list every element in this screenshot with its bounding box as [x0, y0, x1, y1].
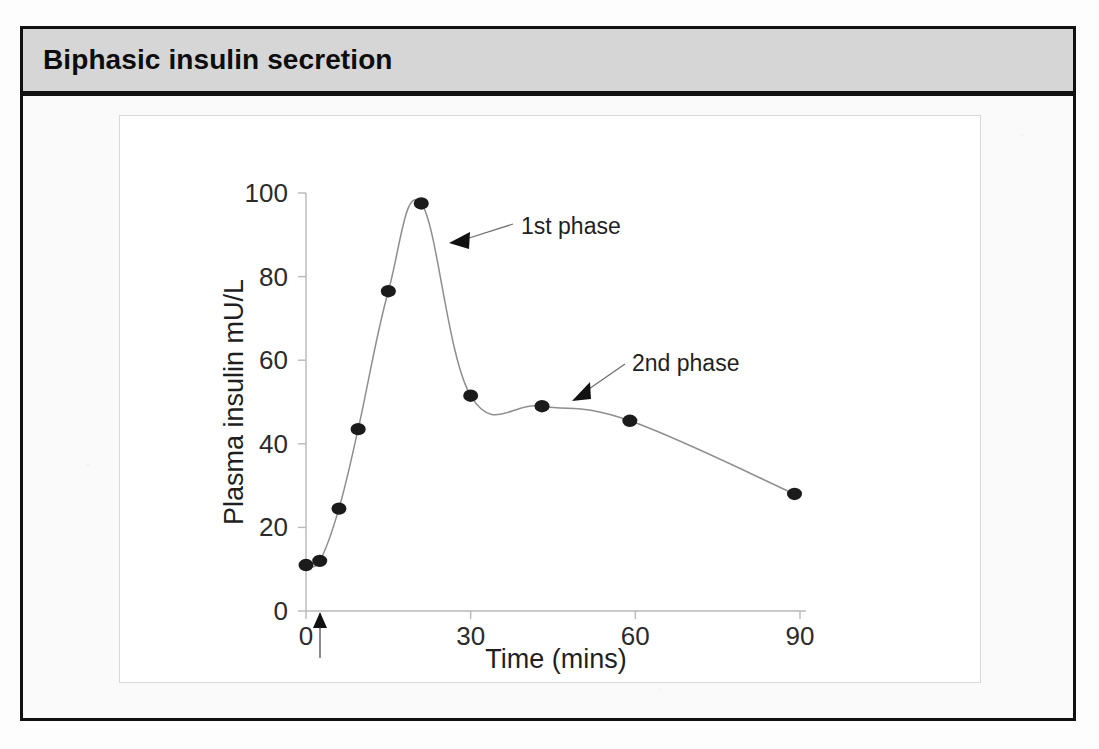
chart-panel [119, 115, 981, 683]
slide-title-bar: Biphasic insulin secretion [20, 26, 1076, 96]
page-title: Biphasic insulin secretion [43, 44, 393, 76]
